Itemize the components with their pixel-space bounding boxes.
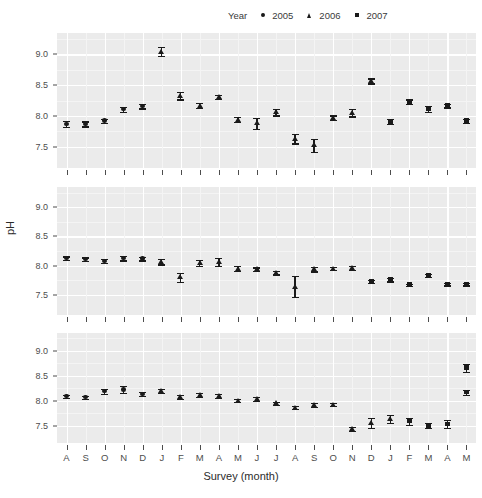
error-bar-cap-lower bbox=[177, 99, 184, 100]
x-tick-mark bbox=[314, 445, 315, 450]
error-bar-cap-lower bbox=[330, 120, 337, 121]
x-tick-mark bbox=[371, 445, 372, 450]
error-bar-cap-lower bbox=[253, 129, 260, 130]
data-point bbox=[209, 33, 228, 168]
data-point bbox=[57, 33, 76, 168]
x-tick-mark bbox=[162, 170, 163, 175]
data-point bbox=[152, 33, 171, 168]
data-point bbox=[324, 33, 343, 168]
triangle-marker-icon bbox=[235, 398, 241, 403]
data-point bbox=[76, 33, 95, 168]
x-tick-mark bbox=[409, 317, 410, 322]
square-marker-icon bbox=[426, 273, 431, 278]
legend-entry-2007[interactable]: 2007 bbox=[352, 10, 387, 21]
legend-entry-2006[interactable]: 2006 bbox=[305, 10, 340, 21]
data-point bbox=[286, 187, 305, 315]
error-bar-cap-lower bbox=[273, 115, 280, 116]
data-point bbox=[171, 187, 190, 315]
data-point bbox=[362, 33, 381, 168]
triangle-marker-icon bbox=[292, 136, 298, 141]
x-tick-label: O bbox=[96, 452, 114, 463]
triangle-marker-icon bbox=[216, 393, 222, 398]
triangle-marker-icon bbox=[216, 259, 222, 264]
circle-marker-icon bbox=[64, 256, 69, 261]
triangle-marker-icon bbox=[235, 266, 241, 271]
x-tick-mark bbox=[105, 445, 106, 450]
data-point bbox=[457, 33, 476, 168]
panel-1 bbox=[57, 33, 476, 168]
data-point bbox=[209, 187, 228, 315]
error-bar-cap-lower bbox=[215, 398, 222, 399]
data-point bbox=[343, 187, 362, 315]
error-bar-cap-lower bbox=[139, 108, 146, 109]
x-tick-mark bbox=[466, 170, 467, 175]
y-tick-label: 8.0 bbox=[22, 261, 48, 271]
data-point bbox=[171, 333, 190, 443]
y-tick-mark bbox=[53, 207, 57, 208]
circle-marker-icon bbox=[64, 122, 69, 127]
x-tick-mark bbox=[466, 317, 467, 322]
x-tick-mark bbox=[219, 170, 220, 175]
data-point bbox=[400, 187, 419, 315]
x-tick-mark bbox=[333, 317, 334, 322]
x-tick-mark bbox=[409, 170, 410, 175]
data-point bbox=[324, 187, 343, 315]
data-point bbox=[114, 33, 133, 168]
x-tick-mark bbox=[371, 317, 372, 322]
x-tick-mark bbox=[105, 317, 106, 322]
x-tick-mark bbox=[162, 317, 163, 322]
data-point bbox=[286, 33, 305, 168]
error-bar-cap-lower bbox=[177, 399, 184, 400]
data-point bbox=[438, 333, 457, 443]
triangle-marker-icon bbox=[330, 266, 336, 271]
x-tick-mark bbox=[447, 317, 448, 322]
data-point bbox=[286, 333, 305, 443]
triangle-marker-icon bbox=[216, 94, 222, 99]
x-ticks-panel-3 bbox=[57, 445, 476, 451]
y-tick-label: 8.5 bbox=[22, 80, 48, 90]
legend-entry-2005[interactable]: 2005 bbox=[258, 10, 293, 21]
y-axis-title-text: pH bbox=[4, 220, 16, 234]
x-tick-label: M bbox=[191, 452, 209, 463]
x-tick-mark bbox=[143, 317, 144, 322]
x-tick-mark bbox=[219, 317, 220, 322]
x-tick-mark bbox=[219, 445, 220, 450]
x-tick-mark bbox=[333, 170, 334, 175]
error-bar-cap-lower bbox=[406, 104, 413, 105]
data-point bbox=[305, 333, 324, 443]
y-tick-mark bbox=[53, 375, 57, 376]
square-marker-icon bbox=[407, 99, 412, 104]
y-tick-label: 9.0 bbox=[22, 346, 48, 356]
triangle-marker-icon bbox=[254, 396, 260, 401]
error-bar-cap-lower bbox=[120, 393, 127, 394]
y-tick-mark bbox=[53, 146, 57, 147]
x-tick-label: J bbox=[248, 452, 266, 463]
triangle-marker-icon bbox=[330, 115, 336, 120]
data-point bbox=[419, 333, 438, 443]
x-tick-label: J bbox=[381, 452, 399, 463]
data-point bbox=[419, 33, 438, 168]
error-bar-cap-lower bbox=[253, 401, 260, 402]
x-tick-mark bbox=[257, 317, 258, 322]
x-tick-mark bbox=[257, 445, 258, 450]
x-tick-mark bbox=[390, 317, 391, 322]
y-tick-label: 8.5 bbox=[22, 231, 48, 241]
x-tick-mark bbox=[257, 170, 258, 175]
x-tick-mark bbox=[333, 445, 334, 450]
square-marker-icon bbox=[369, 279, 374, 284]
ph-survey-chart: Year 2005 2006 2007 pH Survey (month) 7.… bbox=[0, 0, 482, 498]
y-tick-mark bbox=[53, 85, 57, 86]
triangle-marker-icon bbox=[235, 117, 241, 122]
error-bar-cap-lower bbox=[63, 127, 70, 128]
x-tick-mark bbox=[86, 317, 87, 322]
x-tick-label: O bbox=[324, 452, 342, 463]
triangle-marker-icon bbox=[197, 103, 203, 108]
x-tick-label: M bbox=[457, 452, 475, 463]
x-tick-mark bbox=[67, 170, 68, 175]
data-point bbox=[95, 333, 114, 443]
triangle-marker-icon bbox=[158, 388, 164, 393]
data-point bbox=[400, 33, 419, 168]
x-tick-mark bbox=[105, 170, 106, 175]
data-point bbox=[247, 33, 266, 168]
x-tick-mark bbox=[67, 445, 68, 450]
